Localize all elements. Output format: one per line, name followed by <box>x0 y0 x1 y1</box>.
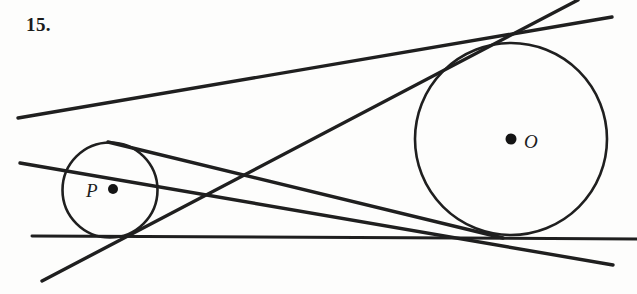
geometry-figure: 15. P O <box>0 0 637 294</box>
circle-o-center-dot <box>506 134 517 145</box>
center-dots-group <box>108 134 517 195</box>
lower-internal-tangent-line <box>20 163 613 265</box>
circle-o-label: O <box>524 131 538 153</box>
circle-p-center-dot <box>108 184 118 194</box>
upper-external-tangent-line <box>18 17 612 118</box>
tangent-lines-group <box>18 0 637 281</box>
circle-p-label: P <box>86 180 98 202</box>
geometry-canvas <box>0 0 637 294</box>
